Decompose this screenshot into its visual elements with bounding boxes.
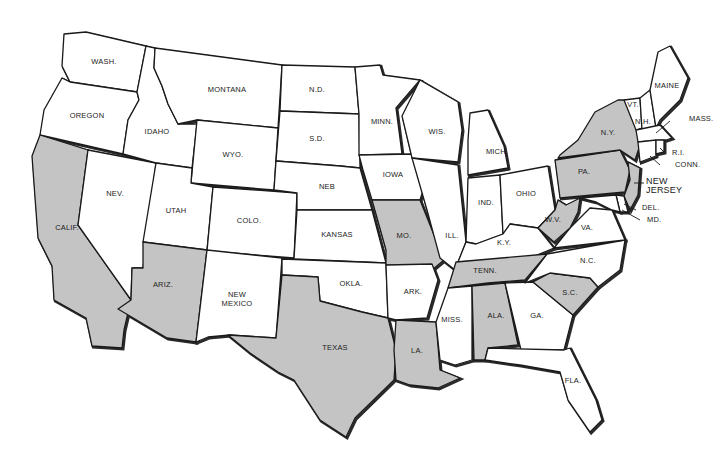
state-label-vt: VT. [627, 100, 638, 109]
state-label-ia: IOWA [383, 170, 404, 179]
state-label-ri: R.I. [672, 148, 684, 157]
state-label-in: IND. [478, 198, 494, 207]
state-label-ok: OKLA. [339, 279, 362, 288]
state-ri [656, 140, 664, 154]
state-label-nv: NEV. [106, 189, 124, 198]
state-fl [485, 348, 602, 432]
state-label-pa: PA. [578, 167, 590, 176]
state-mi [468, 110, 508, 175]
us-map: WASH.OREGONCALIF.NEV.IDAHOMONTANAWYO.UTA… [0, 0, 723, 460]
state-ms [436, 286, 472, 365]
state-label-ca: CALIF. [55, 223, 79, 232]
state-label-nj: NEWJERSEY [646, 176, 682, 195]
state-label-co: COLO. [237, 216, 261, 225]
state-label-mt: MONTANA [208, 85, 246, 94]
state-label-oh: OHIO [516, 189, 536, 198]
state-label-tx: TEXAS [322, 343, 348, 352]
state-in [466, 175, 503, 244]
state-label-tn: TENN. [473, 266, 497, 275]
state-label-wi: WIS. [428, 127, 445, 136]
state-label-la: LA. [411, 346, 423, 355]
state-label-ar: ARK. [404, 287, 422, 296]
state-label-ct: CONN. [675, 160, 700, 169]
state-label-sd: S.D. [309, 134, 324, 143]
state-label-ny: N.Y. [601, 128, 615, 137]
state-label-nc: N.C. [580, 256, 596, 265]
state-label-wv: W.V. [545, 215, 561, 224]
state-label-id: IDAHO [145, 127, 170, 136]
state-label-wa: WASH. [91, 57, 116, 66]
state-label-de: DEL. [642, 203, 659, 212]
state-label-nd: N.D. [309, 85, 325, 94]
state-label-mi: MICH. [486, 147, 508, 156]
state-label-ma: MASS. [689, 114, 713, 123]
state-label-ks: KANSAS [321, 230, 353, 239]
state-label-ga: GA. [530, 311, 544, 320]
state-label-al: ALA. [487, 311, 504, 320]
state-label-ut: UTAH [166, 206, 187, 215]
state-label-nh: N.H. [635, 117, 651, 126]
state-label-ky: K.Y. [497, 238, 511, 247]
state-label-ms: MISS. [441, 315, 462, 324]
state-label-sc: S.C. [562, 288, 577, 297]
state-label-va: VA. [581, 223, 593, 232]
states-layer [32, 32, 689, 438]
state-label-wy: WYO. [223, 150, 244, 159]
state-label-mn: MINN. [371, 117, 393, 126]
state-label-me: MAINE [655, 81, 680, 90]
state-label-ne: NEB [319, 182, 335, 191]
state-label-il: ILL. [445, 231, 458, 240]
state-label-az: ARIZ. [153, 280, 173, 289]
state-label-fl: FLA. [565, 376, 582, 385]
state-label-md: MD. [647, 215, 661, 224]
state-label-or: OREGON [70, 111, 105, 120]
state-label-mo: MO. [397, 231, 412, 240]
